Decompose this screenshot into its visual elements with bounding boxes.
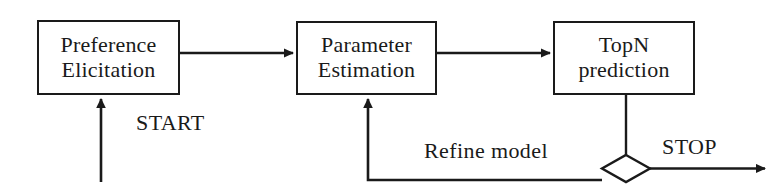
decision-diamond bbox=[602, 155, 650, 182]
edge-label-stop: STOP bbox=[662, 134, 717, 160]
flowchart-canvas: Preference Elicitation Parameter Estimat… bbox=[0, 0, 774, 184]
node-preference-elicitation-line2: Elicitation bbox=[62, 58, 156, 83]
edge-label-start: START bbox=[136, 110, 205, 136]
node-parameter-estimation-line2: Estimation bbox=[318, 58, 415, 83]
node-parameter-estimation-line1: Parameter bbox=[321, 33, 412, 58]
node-preference-elicitation-line1: Preference bbox=[60, 33, 156, 58]
node-topn-prediction[interactable]: TopN prediction bbox=[553, 21, 695, 95]
node-topn-prediction-line2: prediction bbox=[578, 58, 669, 83]
node-preference-elicitation[interactable]: Preference Elicitation bbox=[37, 20, 180, 95]
node-parameter-estimation[interactable]: Parameter Estimation bbox=[296, 21, 437, 95]
edge-label-refine-model: Refine model bbox=[424, 138, 548, 164]
node-topn-prediction-line1: TopN bbox=[599, 33, 650, 58]
